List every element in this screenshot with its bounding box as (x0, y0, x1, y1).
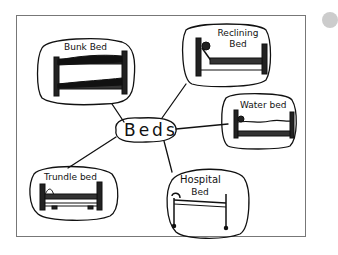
edge-trundle (68, 137, 116, 168)
node-label-reclining-line2: Bed (213, 39, 263, 49)
edge-reclining (162, 84, 186, 118)
trundle-bed-illustration (40, 182, 102, 210)
center-node-label: Beds (124, 121, 178, 139)
water-bed-illustration (234, 110, 294, 138)
node-label-hospital-line2: Bed (180, 187, 220, 197)
node-label-bunk-bed: Bunk Bed (64, 42, 107, 52)
node-label-hospital-line1: Hospital (180, 175, 220, 185)
edge-water (176, 124, 228, 129)
bunk-bed-illustration (54, 51, 127, 96)
edge-hospital (164, 141, 172, 172)
node-label-trundle-bed: Trundle bed (44, 172, 97, 182)
node-label-reclining-line1: Reclining (213, 28, 263, 38)
hospital-bed-illustration (172, 193, 228, 229)
node-label-water-bed: Water bed (240, 100, 286, 110)
